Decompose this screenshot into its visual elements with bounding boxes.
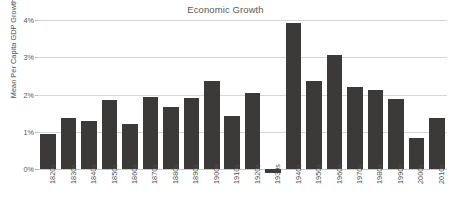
x-tick-slot: 1960s [324, 173, 344, 200]
bar-1900s[interactable] [204, 81, 220, 169]
bar-slot [99, 20, 119, 173]
bars-group [38, 20, 447, 173]
x-tick-label-1860s: 1860s [130, 164, 139, 184]
x-tick-label-1920s: 1920s [253, 164, 262, 184]
x-tick-slot: 1990s [386, 173, 406, 200]
y-tick-label: 4% [24, 16, 34, 25]
bar-slot [304, 20, 324, 173]
y-axis-title: Mean Per Capita GDP Growth [9, 0, 18, 109]
bar-slot [243, 20, 263, 173]
x-tick-slot: 1920s [243, 173, 263, 200]
x-tick-slot: 1880s [161, 173, 181, 200]
bar-1950s[interactable] [306, 81, 322, 169]
bar-1910s[interactable] [224, 116, 240, 169]
x-axis-tick-labels: 1820s1830s1840s1850s1860s1870s1880s1890s… [38, 173, 447, 200]
y-tick-label: 1% [24, 127, 34, 136]
bar-slot [58, 20, 78, 173]
bar-1920s[interactable] [245, 93, 261, 169]
bar-slot [263, 20, 283, 173]
x-tick-label-1840s: 1840s [89, 164, 98, 184]
x-tick-label-1990s: 1990s [396, 164, 405, 184]
bar-1830s[interactable] [61, 118, 77, 169]
x-tick-slot: 1900s [202, 173, 222, 200]
x-tick-label-2000s: 2000s [416, 164, 425, 184]
x-tick-label-1890s: 1890s [191, 164, 200, 184]
x-tick-slot: 1840s [79, 173, 99, 200]
x-tick-label-1830s: 1830s [69, 164, 78, 184]
x-tick-label-1870s: 1870s [150, 164, 159, 184]
x-tick-label-1930s: 1930s [273, 164, 282, 184]
x-tick-label-1910s: 1910s [232, 164, 241, 184]
x-tick-label-1950s: 1950s [314, 164, 323, 184]
bar-1940s[interactable] [286, 23, 302, 169]
x-tick-label-1850s: 1850s [110, 164, 119, 184]
bar-1990s[interactable] [388, 99, 404, 169]
x-tick-slot: 2010s [427, 173, 447, 200]
bar-slot [222, 20, 242, 173]
x-tick-label-1980s: 1980s [375, 164, 384, 184]
bar-1980s[interactable] [368, 90, 384, 169]
x-tick-label-1940s: 1940s [294, 164, 303, 184]
x-tick-slot: 1970s [345, 173, 365, 200]
economic-growth-bar-chart: Economic Growth Mean Per Capita GDP Grow… [0, 0, 451, 200]
bar-slot [120, 20, 140, 173]
x-tick-slot: 1850s [99, 173, 119, 200]
bar-1860s[interactable] [122, 124, 138, 169]
bar-slot [324, 20, 344, 173]
bar-1880s[interactable] [163, 107, 179, 169]
x-tick-slot: 2000s [406, 173, 426, 200]
bar-slot [79, 20, 99, 173]
bar-slot [365, 20, 385, 173]
y-tick-label: 3% [24, 53, 34, 62]
bar-1870s[interactable] [143, 97, 159, 169]
x-tick-slot: 1860s [120, 173, 140, 200]
x-tick-slot: 1830s [58, 173, 78, 200]
bar-1850s[interactable] [102, 100, 118, 169]
bar-slot [38, 20, 58, 173]
x-tick-slot: 1890s [181, 173, 201, 200]
bar-slot [406, 20, 426, 173]
x-tick-label-1880s: 1880s [171, 164, 180, 184]
bar-slot [161, 20, 181, 173]
plot-area: 0%1%2%3%4% [38, 20, 447, 173]
bar-slot [345, 20, 365, 173]
x-tick-slot: 1870s [140, 173, 160, 200]
x-tick-label-1820s: 1820s [48, 164, 57, 184]
bar-1970s[interactable] [347, 87, 363, 169]
bar-2010s[interactable] [429, 118, 445, 169]
bar-1840s[interactable] [81, 121, 97, 169]
y-tick-label: 2% [24, 90, 34, 99]
chart-title: Economic Growth [0, 4, 451, 15]
x-tick-label-1900s: 1900s [212, 164, 221, 184]
bar-slot [283, 20, 303, 173]
x-tick-label-1970s: 1970s [355, 164, 364, 184]
y-tick-label: 0% [24, 165, 34, 174]
x-tick-slot: 1820s [38, 173, 58, 200]
x-tick-slot: 1940s [283, 173, 303, 200]
bar-slot [427, 20, 447, 173]
bar-1890s[interactable] [184, 98, 200, 169]
bar-1960s[interactable] [327, 55, 343, 169]
x-tick-slot: 1950s [304, 173, 324, 200]
x-tick-slot: 1930s [263, 173, 283, 200]
bar-slot [386, 20, 406, 173]
x-tick-label-1960s: 1960s [335, 164, 344, 184]
x-tick-label-2010s: 2010s [437, 164, 446, 184]
x-tick-slot: 1910s [222, 173, 242, 200]
bar-slot [181, 20, 201, 173]
x-tick-slot: 1980s [365, 173, 385, 200]
bar-slot [202, 20, 222, 173]
bar-slot [140, 20, 160, 173]
